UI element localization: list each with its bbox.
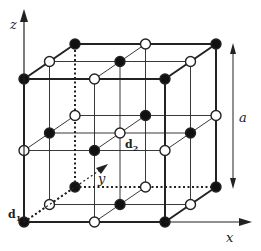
basis-label-d2: d2 [125,138,138,153]
atom-filled-d1 [141,111,151,121]
atom-filled-d1 [115,57,125,67]
atom-filled-d1 [90,146,100,156]
atom-open-d2 [115,128,125,138]
crystal-structure-diagram: z x y a d1 d2 [0,0,261,251]
lattice-constant-label: a [239,110,247,125]
atom-open-d2 [70,111,80,121]
atom-filled-d1 [160,74,170,84]
atom-filled-d1 [45,128,55,138]
atom-open-d2 [141,39,151,49]
atom-open-d2 [90,217,100,227]
atom-filled-d1 [211,39,221,49]
lattice-svg: z x y a d1 d2 [0,0,261,251]
x-axis-arrowhead-icon [239,218,252,226]
z-axis-arrowhead-icon [20,9,28,22]
atom-open-d2 [160,146,170,156]
atom-open-d2 [45,57,55,67]
atom-open-d2 [186,57,196,67]
arrow-down-icon [230,178,236,189]
x-axis-label: x [226,230,234,245]
y-axis [24,170,100,222]
z-axis-label: z [9,17,17,32]
atom-open-d2 [141,182,151,192]
atom-filled-d1 [186,128,196,138]
y-axis-label: y [97,171,106,186]
atom-open-d2 [211,111,221,121]
atom-filled-d1 [70,182,80,192]
atom-open-d2 [90,74,100,84]
atom-open-d2 [45,200,55,210]
arrow-up-icon [230,43,236,54]
atom-open-d2 [186,200,196,210]
basis-label-d1: d1 [8,208,21,223]
atom-filled-d1 [70,39,80,49]
atom-filled-d1 [211,182,221,192]
atom-filled-d1 [115,200,125,210]
